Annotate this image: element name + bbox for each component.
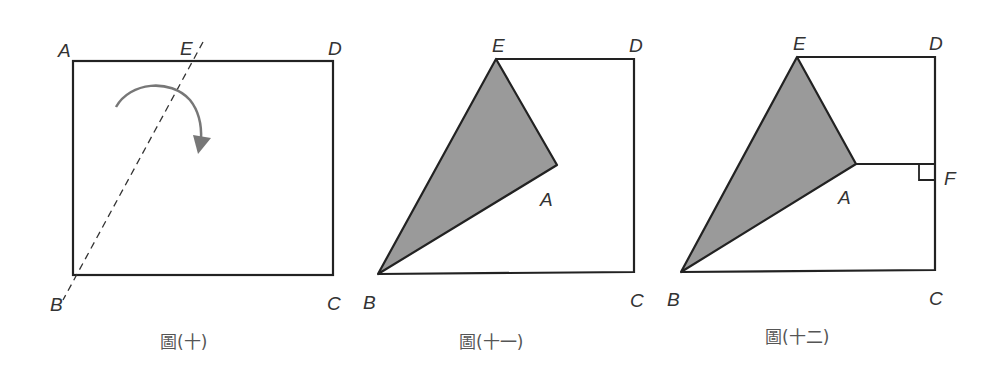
label-c: C bbox=[630, 290, 644, 311]
arrowhead-icon bbox=[193, 135, 211, 154]
figure-11: E D A B C 圖(十一) bbox=[363, 35, 644, 352]
shaded-triangle-abe bbox=[681, 57, 856, 272]
label-d: D bbox=[629, 35, 643, 56]
fold-arrow-icon bbox=[116, 86, 201, 140]
label-e: E bbox=[492, 35, 505, 56]
right-angle-mark bbox=[919, 164, 935, 180]
label-a: A bbox=[837, 187, 851, 208]
geometry-diagram: A E D B C 圖(十) E D A B C 圖(十一) E D F A B… bbox=[0, 0, 996, 377]
figure-12: E D F A B C 圖(十二) bbox=[667, 33, 957, 347]
label-e: E bbox=[180, 38, 193, 59]
label-a: A bbox=[57, 40, 71, 61]
fold-line-be bbox=[63, 42, 203, 300]
label-d: D bbox=[328, 38, 342, 59]
label-b: B bbox=[667, 289, 680, 310]
caption-fig11: 圖(十一) bbox=[459, 332, 523, 352]
label-f: F bbox=[944, 168, 957, 189]
label-b: B bbox=[363, 292, 376, 313]
label-b: B bbox=[50, 294, 63, 315]
caption-fig12: 圖(十二) bbox=[765, 327, 829, 347]
shaded-triangle-abe bbox=[378, 59, 557, 274]
label-c: C bbox=[327, 293, 341, 314]
label-e: E bbox=[793, 33, 806, 54]
rectangle-abcd bbox=[73, 61, 333, 275]
label-c: C bbox=[929, 288, 943, 309]
label-d: D bbox=[929, 33, 943, 54]
label-a: A bbox=[539, 189, 553, 210]
figure-10: A E D B C 圖(十) bbox=[50, 38, 342, 352]
caption-fig10: 圖(十) bbox=[160, 332, 207, 352]
